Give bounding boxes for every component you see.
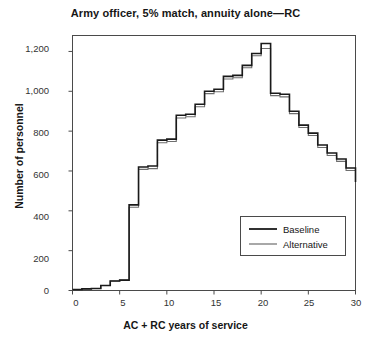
chart-legend: Baseline Alternative xyxy=(241,217,346,256)
legend-box xyxy=(241,217,346,256)
plot-svg: Baseline Alternative xyxy=(0,0,371,343)
chart-figure: Army officer, 5% match, annuity alone—RC… xyxy=(0,0,371,343)
legend-label-baseline: Baseline xyxy=(283,224,319,235)
axis-tick-marks xyxy=(69,51,356,294)
legend-label-alternative: Alternative xyxy=(283,239,328,250)
